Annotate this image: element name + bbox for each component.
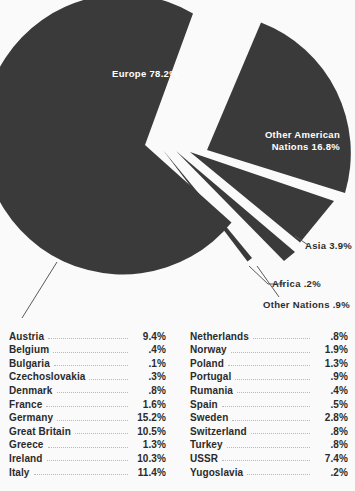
- legend-dot-leader: [247, 468, 310, 475]
- pie-label-other-nations: Other Nations .9%: [263, 299, 350, 311]
- legend-dot-leader: [75, 427, 128, 434]
- legend-row-value: 1.9%: [310, 344, 348, 355]
- legend-column-right: Netherlands.8%Norway1.9%Poland1.3%Portug…: [178, 328, 355, 491]
- legend-row-name: Denmark: [9, 385, 57, 396]
- legend-dot-leader: [235, 373, 310, 380]
- legend-row-value: 10.5%: [128, 426, 166, 437]
- legend-row-name: Poland: [190, 358, 228, 369]
- legend-row-value: .5%: [310, 399, 348, 410]
- legend-row-name: Norway: [190, 344, 231, 355]
- pie-label-europe: Europe 78.2%: [112, 68, 178, 80]
- pie-label-other-american-nations: Other American Nations 16.8%: [236, 129, 340, 153]
- legend-dot-leader: [54, 359, 128, 366]
- legend-row-name: Bulgaria: [9, 358, 54, 369]
- legend-row-name: Austria: [9, 331, 48, 342]
- legend-dot-leader: [253, 332, 310, 339]
- legend-dot-leader: [47, 454, 129, 461]
- legend-row-value: .4%: [310, 385, 348, 396]
- legend-dot-leader: [48, 441, 128, 448]
- legend-dot-leader: [231, 346, 310, 353]
- legend-row: Yugoslavia.2%: [190, 464, 348, 478]
- legend-row: Bulgaria.1%: [9, 355, 166, 369]
- legend-row-name: Italy: [9, 467, 34, 478]
- legend-row-name: Yugoslavia: [190, 467, 247, 478]
- legend-row-value: 11.4%: [128, 467, 166, 478]
- legend-row-value: .8%: [128, 385, 166, 396]
- legend-row: Greece1.3%: [9, 437, 166, 451]
- pie-label-africa: Africa .2%: [272, 278, 321, 290]
- legend-row-value: 1.6%: [128, 399, 166, 410]
- legend-row-name: Switzerland: [190, 426, 251, 437]
- legend-dot-leader: [53, 346, 128, 353]
- legend-row: Austria9.4%: [9, 328, 166, 342]
- legend-dot-leader: [222, 454, 310, 461]
- legend-row-name: Portugal: [190, 371, 235, 382]
- legend-row: Portugal.9%: [190, 369, 348, 383]
- legend-row-name: Belgium: [9, 344, 53, 355]
- legend-dot-leader: [48, 332, 128, 339]
- legend-row-name: Czechoslovakia: [9, 371, 89, 382]
- legend-dot-leader: [57, 414, 128, 421]
- legend-row-value: .8%: [310, 439, 348, 450]
- legend-row: Poland1.3%: [190, 355, 348, 369]
- legend-row-value: .2%: [310, 467, 348, 478]
- legend-row: Turkey.8%: [190, 437, 348, 451]
- legend-row-name: Greece: [9, 439, 48, 450]
- legend-dot-leader: [222, 400, 310, 407]
- legend-row: Netherlands.8%: [190, 328, 348, 342]
- legend-row: Italy11.4%: [9, 464, 166, 478]
- legend-row: Rumania.4%: [190, 382, 348, 396]
- legend-row-value: 2.8%: [310, 412, 348, 423]
- legend-dot-leader: [57, 386, 129, 393]
- legend-row-name: Spain: [190, 399, 222, 410]
- legend-row: Sweden2.8%: [190, 410, 348, 424]
- legend-row-name: Ireland: [9, 453, 47, 464]
- legend-row-value: .9%: [310, 371, 348, 382]
- leader-line-europe: [22, 262, 57, 318]
- legend-row: Belgium.4%: [9, 342, 166, 356]
- legend-row-name: Netherlands: [190, 331, 253, 342]
- legend-row-value: .8%: [310, 426, 348, 437]
- legend-row-name: Turkey: [190, 439, 227, 450]
- legend-dot-leader: [237, 386, 310, 393]
- pie-label-other-american-nations-line1: Other American: [236, 129, 340, 141]
- legend-row-value: 1.3%: [128, 439, 166, 450]
- legend-dot-leader: [227, 441, 310, 448]
- legend-row-name: Great Britain: [9, 426, 75, 437]
- legend-row-name: USSR: [190, 453, 222, 464]
- legend-row-name: Rumania: [190, 385, 237, 396]
- legend-row: Czechoslovakia.3%: [9, 369, 166, 383]
- legend: Austria9.4%Belgium.4%Bulgaria.1%Czechosl…: [0, 328, 355, 491]
- legend-row-value: 1.3%: [310, 358, 348, 369]
- legend-row: Spain.5%: [190, 396, 348, 410]
- legend-row-value: 9.4%: [128, 331, 166, 342]
- legend-row-name: France: [9, 399, 46, 410]
- legend-row-name: Germany: [9, 412, 57, 423]
- legend-dot-leader: [232, 414, 310, 421]
- legend-row: USSR7.4%: [190, 450, 348, 464]
- legend-column-left: Austria9.4%Belgium.4%Bulgaria.1%Czechosl…: [0, 328, 178, 491]
- pie-slice-europe: [0, 0, 232, 274]
- legend-dot-leader: [228, 359, 310, 366]
- legend-dot-leader: [251, 427, 310, 434]
- legend-row-value: .1%: [128, 358, 166, 369]
- legend-row: Great Britain10.5%: [9, 423, 166, 437]
- pie-chart: Europe 78.2% Other American Nations 16.8…: [0, 0, 355, 318]
- legend-row-value: 15.2%: [128, 412, 166, 423]
- legend-row: France1.6%: [9, 396, 166, 410]
- legend-dot-leader: [89, 373, 128, 380]
- legend-row-name: Sweden: [190, 412, 232, 423]
- legend-row: Germany15.2%: [9, 410, 166, 424]
- legend-row-value: .8%: [310, 331, 348, 342]
- legend-row: Denmark.8%: [9, 382, 166, 396]
- legend-dot-leader: [46, 400, 128, 407]
- legend-row: Ireland10.3%: [9, 450, 166, 464]
- pie-label-other-american-nations-line2: Nations 16.8%: [236, 141, 340, 153]
- legend-row-value: 10.3%: [128, 453, 166, 464]
- legend-row: Switzerland.8%: [190, 423, 348, 437]
- legend-row-value: .4%: [128, 344, 166, 355]
- legend-row-value: 7.4%: [310, 453, 348, 464]
- legend-row: Norway1.9%: [190, 342, 348, 356]
- legend-row-value: .3%: [128, 371, 166, 382]
- pie-label-asia: Asia 3.9%: [305, 240, 352, 252]
